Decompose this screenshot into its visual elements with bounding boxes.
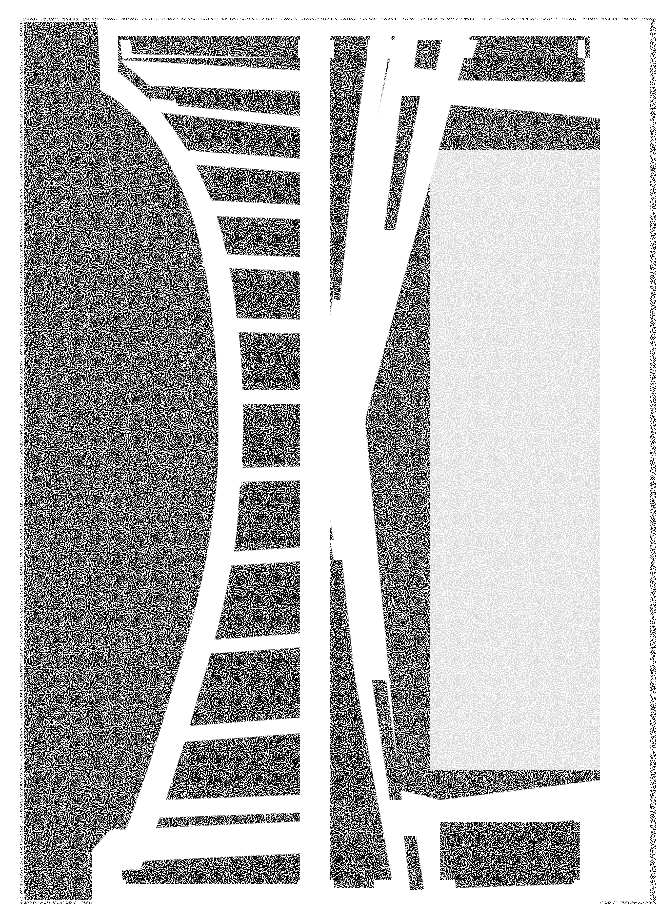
- right-light-area: [600, 20, 656, 904]
- panel-top-2: [334, 40, 368, 64]
- stipple-artwork: [0, 0, 671, 923]
- panel-top-4: [468, 40, 578, 76]
- artwork-svg: [0, 0, 671, 923]
- panel-bottom-2: [334, 840, 374, 888]
